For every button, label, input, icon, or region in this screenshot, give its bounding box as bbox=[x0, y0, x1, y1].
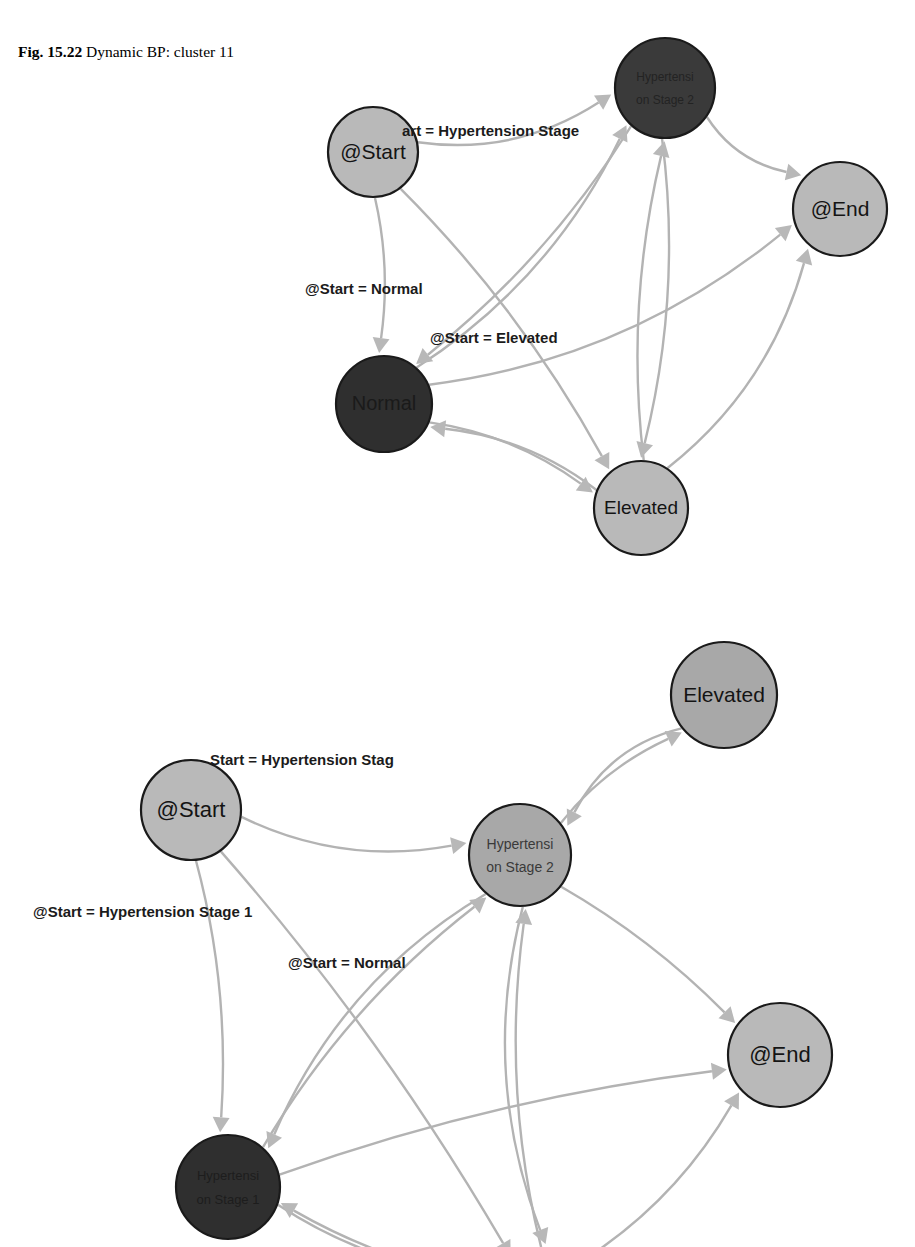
graph-edge bbox=[294, 1211, 494, 1247]
edge-arrowhead bbox=[213, 1117, 230, 1133]
node-circle[interactable] bbox=[176, 1135, 280, 1239]
graph-edge bbox=[561, 887, 724, 1013]
graph-node-end[interactable]: @End bbox=[728, 1003, 832, 1107]
bottom-graph-container: @StartElevatedHypertension Stage 2@EndHy… bbox=[0, 0, 915, 1247]
edge-arrowhead bbox=[515, 909, 532, 925]
graph-node-htn2[interactable]: Hypertension Stage 2 bbox=[469, 804, 571, 906]
edge-arrowhead bbox=[469, 898, 486, 914]
graph-node-htn1[interactable]: Hypertension Stage 1 bbox=[176, 1135, 280, 1239]
edge-arrowhead bbox=[450, 837, 466, 854]
graph-edge bbox=[278, 1205, 478, 1247]
edge-label: @Start = Hypertension Stage 1 bbox=[33, 903, 252, 920]
node-circle[interactable] bbox=[671, 642, 777, 748]
graph-edge bbox=[263, 907, 474, 1147]
bottom-graph-svg: @StartElevatedHypertension Stage 2@EndHy… bbox=[0, 0, 915, 1247]
graph-edge bbox=[196, 861, 223, 1118]
graph-node-start[interactable]: @Start bbox=[141, 760, 241, 860]
graph-edge bbox=[581, 1105, 732, 1247]
edge-label: Start = Hypertension Stag bbox=[210, 751, 394, 768]
edge-arrowhead bbox=[711, 1063, 727, 1080]
graph-edge bbox=[505, 907, 540, 1230]
graph-edge bbox=[274, 894, 486, 1134]
graph-edge bbox=[561, 739, 668, 823]
node-circle[interactable] bbox=[141, 760, 241, 860]
graph-node-elev[interactable]: Elevated bbox=[671, 642, 777, 748]
graph-edge bbox=[280, 1071, 712, 1174]
node-circle[interactable] bbox=[469, 804, 571, 906]
node-circle[interactable] bbox=[728, 1003, 832, 1107]
graph-edge bbox=[242, 817, 452, 852]
node-layer: @StartElevatedHypertension Stage 2@EndHy… bbox=[141, 642, 832, 1247]
edge-label: @Start = Normal bbox=[288, 954, 406, 971]
